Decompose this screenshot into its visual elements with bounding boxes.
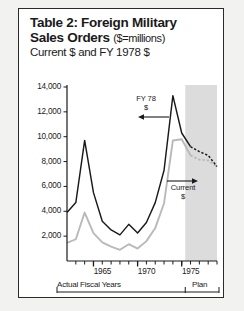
plan-shaded-region	[185, 85, 217, 261]
axis-label-actual-fiscal-years: Actual Fiscal Years	[57, 280, 121, 289]
annotation-fy78-line2: $	[144, 103, 148, 112]
chart-canvas	[19, 9, 225, 299]
y-tick-label: 4,000	[27, 206, 61, 215]
fy78-arrow-head	[138, 114, 144, 120]
y-tick-label: 14,000	[27, 82, 61, 91]
y-tick-label: 12,000	[27, 107, 61, 116]
x-tick-label: 1965	[87, 267, 117, 276]
annotation-fy78-dollars: FY 78 $	[127, 95, 165, 112]
y-tick-label: 6,000	[27, 181, 61, 190]
y-tick-label: 8,000	[27, 157, 61, 166]
x-tick-label: 1975	[176, 267, 206, 276]
annotation-current-dollars: Current $	[163, 184, 203, 201]
y-tick-label: 2,000	[27, 231, 61, 240]
axis-label-plan: Plan	[192, 280, 207, 289]
annotation-current-line2: $	[181, 192, 185, 201]
x-tick-label: 1970	[132, 267, 162, 276]
figure-frame: Table 2: Foreign Military Sales Orders (…	[18, 8, 224, 298]
y-tick-label: 10,000	[27, 132, 61, 141]
